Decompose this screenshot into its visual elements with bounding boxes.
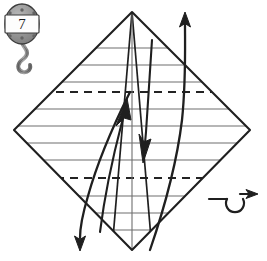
crease-line-set [0, 12, 267, 250]
badge-rivet [8, 34, 11, 37]
step-number-text: 7 [18, 16, 26, 32]
badge-rivet [20, 36, 23, 39]
inner-fold-arrow-right [139, 40, 152, 163]
badge-rivet [32, 11, 35, 14]
fold-arrow-up-right-shaft [150, 24, 185, 250]
badge-rivet [8, 11, 11, 14]
badge-rivet [20, 8, 23, 11]
origami-diagram-figure: 7 [0, 0, 267, 261]
hook-icon [18, 41, 30, 72]
turn-over-symbol [209, 190, 258, 213]
diagram-canvas: 7 [0, 0, 267, 261]
badge-rivet [32, 34, 35, 37]
step-number-badge: 7 [5, 4, 39, 72]
turn-over-symbol-loop [226, 199, 244, 212]
